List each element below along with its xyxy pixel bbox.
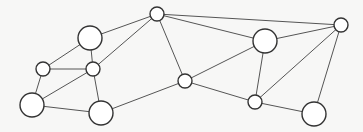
node-K-circle-icon (302, 102, 326, 126)
edge-G-H (185, 41, 265, 81)
node-D-circle-icon (86, 62, 100, 76)
edge-A-G (157, 14, 185, 81)
node-H-circle-icon (253, 29, 277, 53)
node-E-circle-icon (20, 93, 44, 117)
edge-I-K (314, 25, 341, 114)
edge-A-D (93, 14, 157, 69)
node-G-circle-icon (178, 74, 192, 88)
network-diagram (0, 0, 363, 132)
node-J-circle-icon (248, 95, 262, 109)
node-C-circle-icon (36, 62, 50, 76)
edge-A-H (157, 14, 265, 41)
edge-F-G (101, 81, 185, 113)
node-I-circle-icon (334, 18, 348, 32)
edge-G-J (185, 81, 255, 102)
node-A-circle-icon (150, 7, 164, 21)
edge-layer (32, 14, 341, 114)
node-layer (20, 7, 348, 126)
edge-A-I (157, 14, 341, 25)
node-F-circle-icon (89, 101, 113, 125)
node-B-circle-icon (78, 26, 102, 50)
